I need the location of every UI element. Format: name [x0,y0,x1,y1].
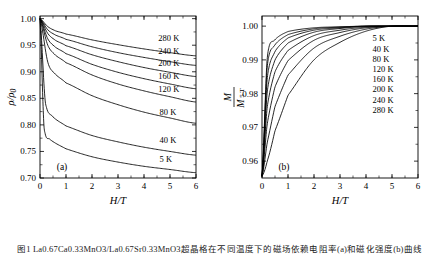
y-tick-label: 1.00 [20,14,36,24]
legend-item-80K: 80 K [373,54,391,64]
series-label-160K: 160 K [158,71,180,81]
series-label-5K: 5 K [160,154,173,164]
legend-item-280K: 280 K [373,105,395,115]
x-tick-label: 3 [116,181,121,191]
series-line-160K [262,26,418,176]
legend-item-5K: 5 K [373,33,386,43]
y-axis-numerator: M [222,92,233,102]
y-axis-denominator: M 5 T [235,88,246,109]
series-line-40K [262,26,418,176]
x-axis-label: H/T [331,195,350,206]
x-tick-label: 1 [286,181,291,191]
series-line-280K [262,26,418,177]
panel-b-plot: 01234560.960.970.980.991.005 K40 K80 K12… [222,16,421,206]
chart-panel-a: 01234560.700.750.800.850.900.951.00280 K… [0,0,218,232]
legend-item-240K: 240 K [373,95,395,105]
series-line-200K [262,26,418,176]
x-tick-label: 5 [168,181,173,191]
y-tick-label: 0.85 [20,93,36,103]
x-tick-label: 4 [364,181,369,191]
x-axis-label: H/T [109,195,128,206]
series-label-240K: 240 K [158,46,180,56]
legend-item-160K: 160 K [373,74,395,84]
x-tick-label: 0 [38,181,43,191]
series-label-40K: 40 K [160,135,178,145]
x-tick-label: 5 [390,181,395,191]
series-label-80K: 80 K [160,107,178,117]
panel-b-svg: 01234560.960.970.980.991.005 K40 K80 K12… [218,0,439,232]
y-tick-label: 0.90 [20,67,36,77]
figure-caption: 图1 La0.67Ca0.33MnO3/La0.67Sr0.33MnO3超晶格在… [0,242,439,254]
x-tick-label: 2 [312,181,317,191]
x-tick-label: 6 [416,181,421,191]
legend-item-120K: 120 K [373,64,395,74]
x-tick-label: 4 [142,181,147,191]
y-tick-label: 0.96 [242,156,258,166]
x-tick-label: 2 [90,181,95,191]
series-line-240K [262,26,418,176]
x-tick-label: 3 [338,181,343,191]
panel-a-plot: 01234560.700.750.800.850.900.951.00280 K… [5,14,199,206]
y-tick-label: 0.70 [20,173,36,183]
y-tick-label: 0.95 [20,40,36,50]
y-tick-label: 0.80 [20,120,36,130]
panel-label-b: (b) [278,162,289,173]
chart-panel-b: 01234560.960.970.980.991.005 K40 K80 K12… [218,0,439,232]
y-tick-label: 0.97 [242,122,258,132]
y-axis-label: MM 5 T [222,87,246,109]
x-tick-label: 6 [194,181,199,191]
series-label-120K: 120 K [158,84,180,94]
y-tick-label: 1.00 [242,21,258,31]
x-tick-label: 1 [64,181,69,191]
panel-a-svg: 01234560.700.750.800.850.900.951.00280 K… [0,0,218,232]
series-line-5K [262,26,418,176]
legend-item-200K: 200 K [373,84,395,94]
y-tick-label: 0.75 [20,146,36,156]
x-tick-label: 0 [260,181,265,191]
y-axis-label: ρ/ρ0 [5,88,18,106]
series-line-120K [262,26,418,176]
panel-label-a: (a) [57,162,68,173]
series-label-200K: 200 K [158,58,180,68]
y-tick-label: 0.99 [242,55,258,65]
legend-item-40K: 40 K [373,44,391,54]
series-line-80K [262,26,418,176]
series-label-280K: 280 K [158,33,180,43]
